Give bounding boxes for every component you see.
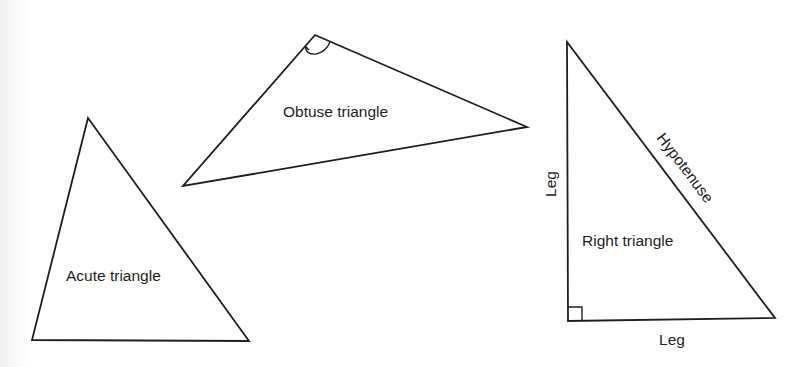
- obtuse-triangle-label: Obtuse triangle: [283, 103, 388, 120]
- diagram-canvas: Acute triangle Obtuse triangle Right tri…: [0, 0, 812, 367]
- obtuse-triangle: Obtuse triangle: [183, 35, 527, 186]
- right-triangle-outline: [567, 42, 775, 321]
- acute-triangle-label: Acute triangle: [66, 267, 161, 284]
- right-triangle: Right triangle Leg Leg Hypotenuse: [542, 42, 775, 348]
- hypotenuse-label: Hypotenuse: [654, 130, 717, 206]
- triangle-types-figure: Acute triangle Obtuse triangle Right tri…: [0, 0, 812, 367]
- right-angle-square-icon: [568, 307, 582, 321]
- right-triangle-label: Right triangle: [582, 232, 673, 249]
- vertical-leg-label: Leg: [542, 171, 559, 197]
- acute-triangle: Acute triangle: [32, 118, 249, 341]
- acute-triangle-outline: [32, 118, 249, 341]
- horizontal-leg-label: Leg: [659, 331, 685, 348]
- obtuse-angle-arc-icon: [306, 42, 331, 54]
